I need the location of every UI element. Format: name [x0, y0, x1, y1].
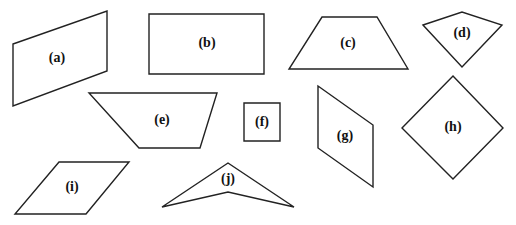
shape-e: (e) [89, 93, 217, 148]
shape-i: (i) [15, 162, 129, 214]
shape-label: (g) [337, 128, 354, 144]
shape-d: (d) [423, 12, 502, 67]
shape-h: (h) [402, 76, 503, 179]
shape-b: (b) [149, 14, 264, 74]
shape-label: (e) [154, 112, 170, 128]
shape-label: (c) [340, 35, 356, 51]
shape-label: (j) [221, 171, 235, 187]
trapezoid-outline [89, 93, 217, 148]
shape-g: (g) [318, 86, 373, 187]
shapes-svg: (a)(b)(c)(d)(e)(f)(g)(h)(i)(j) [0, 0, 516, 225]
shape-label: (a) [49, 50, 66, 66]
shape-a: (a) [13, 11, 107, 106]
shape-j: (j) [162, 163, 294, 207]
shape-f: (f) [244, 103, 280, 141]
shape-label: (f) [255, 114, 269, 130]
shapes-figure: (a)(b)(c)(d)(e)(f)(g)(h)(i)(j) [0, 0, 516, 225]
shape-label: (i) [65, 179, 79, 195]
shape-label: (d) [453, 25, 470, 41]
shape-c: (c) [289, 17, 408, 69]
shape-label: (h) [444, 119, 461, 135]
shape-label: (b) [198, 35, 215, 51]
